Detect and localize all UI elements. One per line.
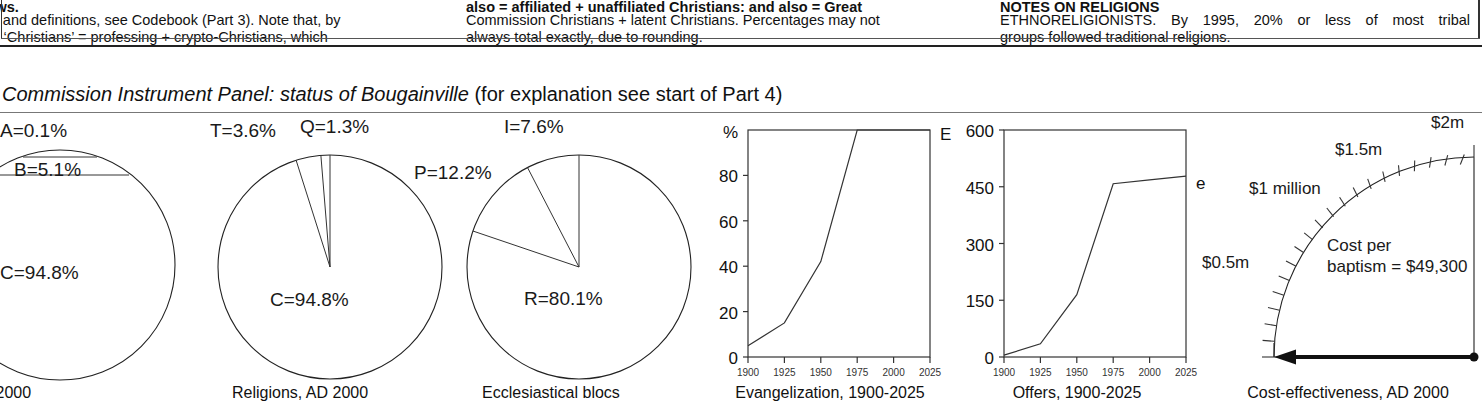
gauge-pivot: [1470, 353, 1479, 362]
y-axis-ticks: [999, 130, 1004, 357]
caption-religions: Religions, AD 2000: [232, 384, 492, 402]
x-tick-2025: 2025: [919, 367, 942, 378]
y-tick-0: 0: [985, 349, 994, 368]
label-slice-q: Q=1.3%: [300, 116, 369, 138]
x-tick-2000: 2000: [882, 367, 905, 378]
chart-offers: 0 150 300 450 600 e 1900 1925 1950 1975 …: [950, 112, 1220, 382]
notes-middle-heading: also = affiliated + unaffiliated Christi…: [466, 0, 936, 12]
y-tick-80: 80: [719, 167, 738, 186]
x-tick-1900: 1900: [737, 367, 760, 378]
notes-left-heading: MS, flows.: [0, 0, 400, 12]
gauge-scale-label-1-5m: $1.5m: [1335, 140, 1382, 160]
label-slice-c: C=94.8%: [270, 289, 349, 311]
y-axis-label: %: [723, 123, 738, 142]
notes-column-right: NOTES ON RELIGIONS ETHNORELIGIONISTS. By…: [1000, 0, 1470, 46]
notes-right-heading: NOTES ON RELIGIONS: [1000, 0, 1470, 12]
notes-column-middle: also = affiliated + unaffiliated Christi…: [466, 0, 936, 46]
figure-cost-effectiveness: $0.5m $1 million $1.5m $2m Cost per bapt…: [1212, 112, 1482, 406]
x-tick-1975: 1975: [1102, 367, 1125, 378]
x-tick-1900: 1900: [993, 367, 1016, 378]
chart-evangelization: 0 20 40 60 80 % E 1900 1925 1950 1975 20…: [700, 112, 960, 382]
x-tick-1925: 1925: [773, 367, 796, 378]
notes-band: MS, flows. eanings and definitions, see …: [0, 0, 1482, 40]
slice-divider-q: [321, 156, 330, 267]
gauge-scale-label-2m: $2m: [1431, 113, 1464, 133]
x-axis-ticks: [1004, 357, 1186, 363]
figure-offers: 0 150 300 450 600 e 1900 1925 1950 1975 …: [950, 112, 1220, 406]
notes-column-left: MS, flows. eanings and definitions, see …: [0, 0, 400, 46]
gauge-scale-label-0-5m: $0.5m: [1202, 253, 1249, 273]
y-tick-600: 600: [966, 122, 994, 141]
label-slice-p: P=12.2%: [414, 162, 492, 184]
notes-box-left-border: [1, 0, 2, 38]
page-title-emphasis: Commission Instrument Panel: status of B…: [2, 83, 469, 105]
series-label-e-lower: e: [1196, 174, 1205, 193]
y-tick-300: 300: [966, 236, 994, 255]
notes-box-right-border: [1478, 0, 1480, 38]
caption-cost-effectiveness: Cost-effectiveness, AD 2000: [1212, 384, 1482, 402]
gauge-readout-line-2: baptism = $49,300: [1327, 256, 1467, 277]
notes-right-line-1: ETHNORELIGIONISTS. By 1995, 20% or less …: [1000, 12, 1470, 29]
label-slice-t: T=3.6%: [210, 120, 276, 142]
figure-ecclesiastical-blocs: I=7.6% P=12.2% R=80.1% Ecclesiastical bl…: [462, 112, 722, 406]
caption-evangelization: Evangelization, 1900-2025: [695, 384, 965, 402]
gauge-scale-label-1m: $1 million: [1249, 179, 1321, 199]
slice-divider-t: [296, 160, 330, 267]
y-tick-150: 150: [966, 292, 994, 311]
label-slice-r: R=80.1%: [524, 288, 603, 310]
page-title: Commission Instrument Panel: status of B…: [2, 82, 782, 106]
page-title-suffix: (for explanation see start of Part 4): [469, 83, 783, 105]
x-tick-2000: 2000: [1138, 367, 1161, 378]
notes-left-line-1: eanings and definitions, see Codebook (P…: [0, 12, 400, 29]
chart-religions: [212, 112, 472, 382]
gauge-readout-line-1: Cost per: [1327, 235, 1467, 256]
divider-top: [1, 38, 1480, 39]
x-tick-2025: 2025: [1175, 367, 1198, 378]
divider-heavy: [0, 45, 1482, 47]
figure-3-worlds: A=0.1% B=5.1% C=94.8% 3 Worlds, AD 2000: [0, 112, 212, 406]
panel-page: MS, flows. eanings and definitions, see …: [0, 0, 1482, 406]
caption-offers: Offers, 1900-2025: [942, 384, 1212, 402]
gauge-readout: Cost per baptism = $49,300: [1327, 235, 1467, 277]
label-segment-b: B=5.1%: [14, 159, 81, 181]
figure-evangelization: 0 20 40 60 80 % E 1900 1925 1950 1975 20…: [700, 112, 960, 406]
x-axis-ticks: [748, 357, 930, 363]
y-tick-60: 60: [719, 213, 738, 232]
y-tick-0: 0: [729, 349, 738, 368]
label-segment-c: C=94.8%: [0, 262, 79, 284]
x-tick-1925: 1925: [1029, 367, 1052, 378]
plot-frame: [748, 130, 930, 357]
data-series-offers: [1004, 176, 1186, 355]
caption-3-worlds: 3 Worlds, AD 2000: [0, 384, 228, 402]
label-slice-i: I=7.6%: [504, 116, 564, 138]
y-tick-20: 20: [719, 304, 738, 323]
figure-religions: T=3.6% Q=1.3% C=94.8% Religions, AD 2000: [212, 112, 472, 406]
gauge-needle-head: [1274, 350, 1296, 365]
data-series-e: [748, 130, 930, 346]
x-tick-1950: 1950: [810, 367, 833, 378]
x-tick-1975: 1975: [846, 367, 869, 378]
y-tick-40: 40: [719, 258, 738, 277]
x-tick-1950: 1950: [1066, 367, 1089, 378]
plot-frame: [1004, 130, 1186, 357]
chart-ecclesiastical-blocs: [462, 112, 722, 382]
y-tick-450: 450: [966, 179, 994, 198]
y-axis-ticks: [743, 175, 748, 357]
label-segment-a: A=0.1%: [0, 120, 67, 142]
notes-middle-line-1: Commission Christians + latent Christian…: [466, 12, 936, 29]
chart-3-worlds: [0, 112, 212, 382]
instrument-row: A=0.1% B=5.1% C=94.8% 3 Worlds, AD 2000 …: [0, 112, 1482, 406]
